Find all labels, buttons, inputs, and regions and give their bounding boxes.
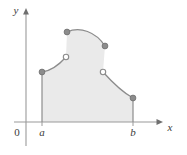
y-axis-label: y (13, 4, 19, 16)
closed-point-right-lower (130, 95, 136, 101)
origin-label: 0 (14, 126, 20, 138)
open-point-right-upper (100, 69, 105, 74)
closed-point-arc-left (64, 29, 70, 35)
y-axis-arrowhead (23, 8, 29, 15)
tick-label-b: b (130, 126, 136, 138)
x-axis-arrowhead (157, 119, 164, 125)
x-axis-label: x (167, 121, 173, 133)
figure-canvas: y x 0 a b (0, 0, 187, 155)
open-point-left-upper (63, 54, 68, 59)
graph-svg: y x 0 a b (0, 0, 187, 155)
shaded-region (42, 30, 133, 122)
closed-point-left-lower (39, 69, 45, 75)
tick-label-a: a (39, 126, 45, 138)
closed-point-arc-right (102, 43, 108, 49)
